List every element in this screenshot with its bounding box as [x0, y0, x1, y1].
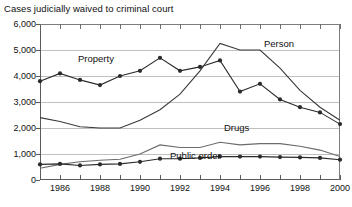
data-point: [78, 78, 82, 82]
data-point: [258, 82, 262, 86]
series-label-public-order: Public order: [170, 150, 221, 161]
data-point: [58, 162, 62, 166]
chart-title: Cases judicially waived to criminal cour…: [4, 3, 173, 14]
x-axis-tick-label: 2000: [330, 183, 350, 193]
data-point: [118, 162, 122, 166]
y-axis-tick-label: 3,000: [13, 97, 36, 107]
x-axis-tick-label: 1990: [130, 183, 150, 193]
data-point: [58, 71, 62, 75]
x-axis-tick-label: 1988: [90, 183, 110, 193]
y-axis-tick: [36, 180, 40, 181]
x-axis-tick-label: 1996: [250, 183, 270, 193]
series-line-property: [40, 58, 340, 124]
y-axis-tick-label: 1,000: [13, 149, 36, 159]
data-point: [178, 69, 182, 73]
chart-container: Cases judicially waived to criminal cour…: [0, 0, 352, 207]
series-label-property: Property: [78, 53, 114, 64]
data-point: [98, 83, 102, 87]
series-label-drugs: Drugs: [224, 122, 249, 133]
data-point: [278, 155, 282, 159]
y-axis-tick-label: 4,000: [13, 71, 36, 81]
data-point: [158, 157, 162, 161]
y-axis-tick-label: 2,000: [13, 123, 36, 133]
data-point: [278, 97, 282, 101]
y-axis-tick-label: 6,000: [13, 19, 36, 29]
x-axis-tick-label: 1994: [210, 183, 230, 193]
data-point: [138, 69, 142, 73]
data-point: [318, 156, 322, 160]
x-axis-tick-label: 1992: [170, 183, 190, 193]
data-point: [38, 162, 42, 166]
data-point: [38, 79, 42, 83]
data-point: [318, 110, 322, 114]
data-point: [258, 155, 262, 159]
data-point: [338, 158, 342, 162]
x-axis-tick-label: 1998: [290, 183, 310, 193]
x-axis-tick-label: 1986: [50, 183, 70, 193]
data-point: [138, 160, 142, 164]
data-point: [298, 155, 302, 159]
x-axis-tick: [340, 175, 341, 180]
data-point: [158, 56, 162, 60]
data-point: [218, 58, 222, 62]
data-point: [98, 162, 102, 166]
data-point: [238, 90, 242, 94]
series-label-person: Person: [264, 38, 294, 49]
y-axis-tick-label: 5,000: [13, 45, 36, 55]
y-axis-labels: 01,0002,0003,0004,0005,0006,000: [0, 24, 36, 180]
x-axis-tick-top: [340, 24, 341, 29]
data-point: [118, 74, 122, 78]
data-point: [78, 163, 82, 167]
data-point: [298, 105, 302, 109]
data-point: [238, 155, 242, 159]
data-point: [338, 122, 342, 126]
